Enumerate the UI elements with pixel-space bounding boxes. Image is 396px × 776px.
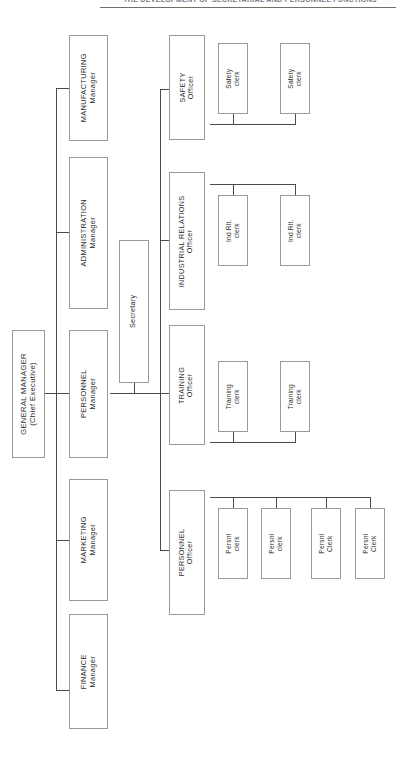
node-personnel-clerk-3-text: Persnl Clerk [318,534,334,554]
connector-manager-stub-manufacturing [56,88,69,89]
node-general-manager[interactable]: GENERAL MANAGER (Chief Executive) [12,330,45,458]
node-training-officer[interactable]: TRAINING Officer [169,325,205,445]
node-safety-clerk-2-text: Safety clerk [287,69,303,89]
node-personnel-officer-line2: Officer [187,529,195,577]
connector-officer-stub-safety [160,89,169,90]
connector-training-clerk-1 [233,432,234,443]
node-industrial-relations-clerk-2[interactable]: Ind Rlt. clerk [280,195,310,266]
node-personnel-clerk-3[interactable]: Persnl Clerk [311,508,341,579]
node-general-manager-text: GENERAL MANAGER (Chief Executive) [20,353,38,435]
node-personnel-officer[interactable]: PERSONNEL Officer [169,490,205,615]
connector-personnel-officer-out [210,497,371,498]
connector-ir-clerk-1 [233,184,234,195]
node-safety-officer[interactable]: SAFETY Officer [169,35,205,140]
node-administration-manager-text: ADMINISTRATION Manager [80,199,97,267]
node-safety-officer-line2: Officer [187,72,195,102]
node-training-clerk-2-line2: clerk [295,384,303,409]
node-administration-manager-line2: Manager [89,199,98,267]
node-training-clerk-2-text: Training clerk [287,384,303,409]
node-industrial-relations-clerk-2-line2: clerk [295,219,303,242]
node-personnel-clerk-1-line2: clerk [233,534,241,554]
connector-persnl-clerk-3 [326,497,327,508]
connector-secretary-drop [134,383,135,394]
connector-officer-stub-industrial-relations [160,240,169,241]
node-personnel-clerk-4[interactable]: Persnl Clerk [355,508,385,579]
connector-industrial-relations-out [210,184,296,185]
node-manufacturing-manager-text: MANUFACTURING Manager [80,53,97,122]
node-training-clerk-1[interactable]: Training clerk [218,361,248,432]
node-personnel-clerk-2[interactable]: Persnl clerk [261,508,291,579]
page-header-title: THE DEVELOPMENT OF SECRETARIAL AND PERSO… [104,0,396,4]
node-industrial-relations-clerk-1-line2: clerk [233,219,241,242]
node-secretary[interactable]: Secretary [119,240,149,383]
connector-manager-stub-personnel [56,393,69,394]
node-marketing-manager-line2: Manager [89,516,98,563]
node-secretary-text: Secretary [130,295,138,328]
node-industrial-relations-clerk-2-line1: Ind Rlt. [287,219,295,242]
node-safety-clerk-2-line2: clerk [295,69,303,89]
connector-manager-stub-marketing [56,540,69,541]
connector-safety-clerk-1 [233,114,234,125]
node-training-officer-line2: Officer [187,366,195,403]
connector-ir-clerk-2 [295,184,296,195]
node-personnel-clerk-3-line2: Clerk [326,534,334,554]
node-secretary-line1: Secretary [130,295,138,328]
page-header: THE DEVELOPMENT OF SECRETARIAL AND PERSO… [0,0,396,9]
node-personnel-officer-text: PERSONNEL Officer [179,529,196,577]
node-industrial-relations-clerk-1-text: Ind Rlt. clerk [225,219,241,242]
node-administration-manager[interactable]: ADMINISTRATION Manager [69,157,108,309]
node-marketing-manager-text: MARKETING Manager [80,516,97,563]
connector-safety-out [210,124,296,125]
node-industrial-relations-officer-text: INDUSTRIAL RELATIONS Officer [179,195,196,287]
node-personnel-clerk-3-line1: Persnl [318,534,326,554]
node-personnel-clerk-1-text: Persnl clerk [225,534,241,554]
node-training-officer-text: TRAINING Officer [179,366,196,403]
connector-persnl-clerk-2 [276,497,277,508]
node-general-manager-line2: (Chief Executive) [29,353,38,435]
connector-safety-clerk-2 [295,114,296,125]
node-personnel-clerk-4-text: Persnl Clerk [362,534,378,554]
node-safety-clerk-1[interactable]: Safety clerk [218,43,248,114]
connector-training-clerk-2 [295,432,296,443]
node-personnel-clerk-4-line1: Persnl [362,534,370,554]
node-personnel-clerk-1[interactable]: Persnl clerk [218,508,248,579]
node-finance-manager-text: FINANCE Manager [80,654,97,689]
connector-officer-stub-training [160,393,169,394]
connector-persnl-clerk-4 [370,497,371,508]
connector-persnl-clerk-1 [233,497,234,508]
node-industrial-relations-clerk-1[interactable]: Ind Rlt. clerk [218,195,248,266]
connector-gm-spine [56,88,57,690]
organisation-chart: THE DEVELOPMENT OF SECRETARIAL AND PERSO… [0,0,396,776]
node-manufacturing-manager-line2: Manager [89,53,98,122]
node-safety-officer-text: SAFETY Officer [179,72,196,102]
node-industrial-relations-officer[interactable]: INDUSTRIAL RELATIONS Officer [169,172,205,310]
connector-officer-spine [160,89,161,550]
node-personnel-clerk-2-line1: Persnl [268,534,276,554]
connector-officer-stub-personnel [160,550,169,551]
node-safety-clerk-1-line1: Safety [225,69,233,89]
node-training-clerk-2[interactable]: Training clerk [280,361,310,432]
connector-training-out [210,442,296,443]
node-industrial-relations-officer-line2: Officer [187,195,195,287]
node-safety-clerk-1-line2: clerk [233,69,241,89]
connector-manager-stub-administration [56,232,69,233]
connector-manager-stub-finance [56,690,69,691]
node-finance-manager-line2: Manager [88,654,97,689]
node-training-clerk-1-text: Training clerk [225,384,241,409]
node-personnel-clerk-1-line1: Persnl [225,534,233,554]
node-industrial-relations-clerk-1-line1: Ind Rlt. [225,219,233,242]
node-training-clerk-1-line2: clerk [233,384,241,409]
node-personnel-clerk-2-line2: clerk [276,534,284,554]
node-personnel-manager-line2: Manager [89,370,98,419]
node-personnel-manager-text: PERSONNEL Manager [80,370,97,419]
node-safety-clerk-2-line1: Safety [287,69,295,89]
header-rule [100,7,396,8]
node-marketing-manager[interactable]: MARKETING Manager [69,479,108,601]
node-manufacturing-manager[interactable]: MANUFACTURING Manager [69,35,108,141]
node-safety-clerk-2[interactable]: Safety clerk [280,43,310,114]
node-industrial-relations-clerk-2-text: Ind Rlt. clerk [287,219,303,242]
node-finance-manager[interactable]: FINANCE Manager [69,614,108,729]
node-personnel-manager[interactable]: PERSONNEL Manager [69,330,108,458]
node-personnel-clerk-4-line2: Clerk [370,534,378,554]
node-safety-clerk-1-text: Safety clerk [225,69,241,89]
